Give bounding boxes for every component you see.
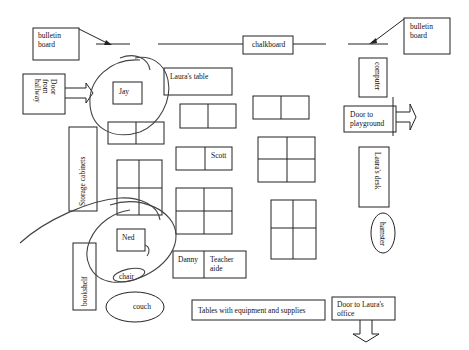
door-arrow-icon (65, 83, 93, 103)
svg-text:Tables with equipment and supp: Tables with equipment and supplies (198, 306, 305, 315)
desk-pair-scott: Scott (176, 147, 232, 170)
desk-quad (258, 137, 315, 182)
door-to-lauras-office: Door to Laura's office (332, 297, 395, 342)
chalkboard: chalkboard (243, 36, 293, 54)
door-arrow-icon (353, 320, 379, 342)
classroom-map: bulletin board chalkboard bulletin board… (0, 0, 469, 350)
couch: couch (106, 292, 164, 322)
svg-text:chalkboard: chalkboard (252, 40, 286, 49)
seat-jay: Jay (113, 82, 142, 104)
bulletin-board-right: bulletin board (369, 18, 450, 54)
desk-quad (117, 160, 162, 215)
svg-text:playground: playground (350, 119, 384, 128)
classroom-diagram: bulletin board chalkboard bulletin board… (0, 0, 469, 350)
svg-text:board: board (38, 40, 55, 49)
desk-quad (271, 200, 316, 259)
svg-text:office: office (337, 309, 355, 318)
svg-text:Laura's desk: Laura's desk (373, 152, 382, 190)
svg-text:couch: couch (133, 302, 151, 311)
arrow-head-icon (104, 40, 112, 45)
svg-text:Scott: Scott (211, 151, 227, 160)
door-from-hallway: Door from hallway (23, 74, 93, 114)
svg-text:hallway: hallway (33, 79, 42, 103)
arrow-head-icon (369, 38, 377, 44)
svg-text:computer: computer (373, 62, 382, 91)
svg-text:Danny: Danny (178, 255, 198, 264)
computer: computer (359, 58, 387, 97)
svg-text:Door to Laura's: Door to Laura's (337, 300, 384, 309)
svg-text:Door to: Door to (350, 110, 373, 119)
door-to-playground: Door to playground (344, 97, 416, 136)
door-arrow-icon (396, 104, 416, 130)
desk-pair (180, 104, 236, 128)
lauras-desk: Laura's desk (359, 147, 389, 207)
hamster: hamster (371, 213, 395, 253)
lauras-table: Laura's table (164, 68, 232, 95)
equipment-tables: Tables with equipment and supplies (192, 300, 325, 320)
svg-text:Storage cabinets: Storage cabinets (78, 157, 87, 206)
svg-text:bulletin: bulletin (38, 31, 61, 40)
svg-text:hamster: hamster (378, 222, 387, 246)
desk-pair-danny-aide: Danny Teacher aide (173, 251, 246, 278)
svg-text:Teacher: Teacher (210, 255, 234, 264)
desk-pair (253, 96, 309, 119)
svg-text:Ned: Ned (122, 233, 135, 242)
svg-text:bulletin: bulletin (410, 22, 433, 31)
svg-text:Jay: Jay (119, 87, 129, 96)
bookshelf: bookshelf (73, 243, 96, 310)
seat-ned: Ned (117, 229, 145, 251)
svg-text:aide: aide (210, 264, 223, 273)
storage-cabinets: Storage cabinets (69, 127, 97, 211)
svg-text:board: board (410, 31, 427, 40)
svg-text:bookshelf: bookshelf (80, 276, 89, 306)
desk-quad (176, 188, 232, 234)
svg-text:Laura's table: Laura's table (170, 72, 209, 81)
